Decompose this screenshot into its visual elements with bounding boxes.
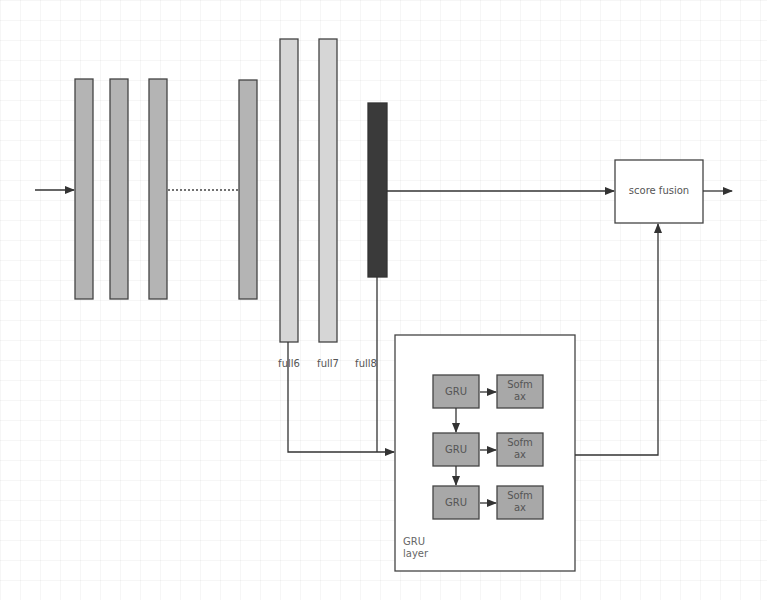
- conv-layer-last: [239, 80, 257, 299]
- full6-label: full6: [273, 358, 305, 370]
- full7-layer: [319, 39, 337, 342]
- gru-cell-1-label: GRU: [433, 386, 479, 398]
- gru-layer-label-line1: GRU: [403, 536, 428, 548]
- softmax-1-line1: Sofm: [497, 379, 543, 391]
- conv-layer-3: [149, 79, 167, 299]
- full8-layer: [368, 103, 387, 277]
- conv-layer-1: [75, 79, 93, 299]
- softmax-3-line1: Sofm: [497, 490, 543, 502]
- softmax-1-line2: ax: [497, 391, 543, 403]
- full8-label: full8: [350, 358, 382, 370]
- score-fusion-label: score fusion: [615, 185, 703, 197]
- gru-layer-label: GRU layer: [403, 536, 428, 560]
- gru-cell-3-label: GRU: [433, 497, 479, 509]
- softmax-3-line2: ax: [497, 502, 543, 514]
- softmax-cell-2-label: Sofm ax: [497, 437, 543, 461]
- full6-layer: [280, 39, 298, 342]
- softmax-cell-3-label: Sofm ax: [497, 490, 543, 514]
- softmax-cell-1-label: Sofm ax: [497, 379, 543, 403]
- softmax-2-line2: ax: [497, 449, 543, 461]
- softmax-2-line1: Sofm: [497, 437, 543, 449]
- full7-label: full7: [312, 358, 344, 370]
- gru-cell-2-label: GRU: [433, 444, 479, 456]
- conv-layer-2: [110, 79, 128, 299]
- diagram-canvas: [0, 0, 767, 600]
- gru-layer-label-line2: layer: [403, 548, 428, 560]
- gru-to-fusion-connector: [575, 224, 658, 455]
